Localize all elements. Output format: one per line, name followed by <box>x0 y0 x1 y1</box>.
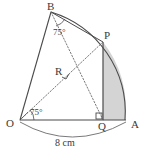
geometry-canvas <box>0 0 149 156</box>
dimension-label-8cm: 8 cm <box>55 138 75 148</box>
angle-label-at-B: 75° <box>53 28 66 37</box>
point-label-O: O <box>6 118 14 129</box>
point-label-Q: Q <box>98 121 106 132</box>
point-label-A: A <box>131 119 139 130</box>
angle-label-at-O: 75° <box>30 108 43 117</box>
point-label-B: B <box>47 1 54 12</box>
right-angle-mark-at-R <box>62 74 69 79</box>
dimension-brace-OA <box>20 122 126 137</box>
point-label-R: R <box>55 66 62 77</box>
point-label-P: P <box>104 30 110 41</box>
segment-OB <box>20 12 51 120</box>
shaded-region-QAP <box>103 42 126 120</box>
geometry-figure: B P R O Q A 75° 75° 8 cm <box>0 0 149 156</box>
